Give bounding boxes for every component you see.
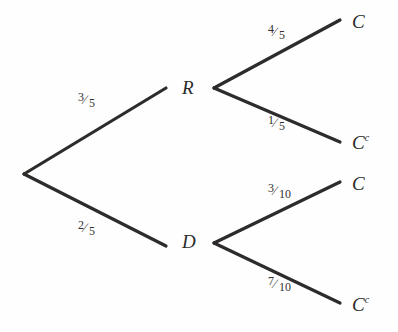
fraction-denominator: 10 [279, 187, 291, 201]
node-text-Ccomp-lower: C [352, 294, 365, 315]
fraction-denominator: 5 [279, 119, 285, 133]
tree-edges-canvas [0, 0, 398, 332]
node-label-Ccomp-upper: Cc [352, 133, 369, 152]
edge-root-to-D [24, 174, 166, 246]
edge-label-R-to-C: 4⁄5 [268, 25, 287, 38]
node-text-C-lower: C [352, 173, 365, 194]
node-superscript-complement-lower: c [365, 294, 369, 305]
node-text-D: D [182, 231, 196, 252]
node-label-C-upper: C [352, 12, 365, 31]
fraction-denominator: 5 [279, 28, 285, 42]
fraction-one-fifth: 1⁄5 [268, 116, 287, 129]
fraction-three-tenths: 3⁄10 [268, 184, 293, 197]
fraction-denominator: 10 [279, 280, 291, 294]
fraction-two-fifths: 2⁄5 [78, 221, 97, 234]
edge-label-root-to-D: 2⁄5 [78, 221, 97, 234]
edge-label-R-to-Ccomp: 1⁄5 [268, 116, 287, 129]
node-superscript-complement-upper: c [365, 132, 369, 143]
edge-label-root-to-R: 3⁄5 [78, 93, 97, 106]
fraction-four-fifths: 4⁄5 [268, 25, 287, 38]
node-text-C-upper: C [352, 11, 365, 32]
node-text-Ccomp-upper: C [352, 132, 365, 153]
probability-tree-diagram: R D C Cc C Cc 3⁄5 2⁄5 4⁄5 1⁄5 3⁄10 7⁄10 [0, 0, 398, 332]
edge-label-D-to-C: 3⁄10 [268, 184, 293, 197]
node-label-C-lower: C [352, 174, 365, 193]
edge-label-D-to-Ccomp: 7⁄10 [268, 277, 293, 290]
node-label-R: R [182, 78, 194, 97]
fraction-seven-tenths: 7⁄10 [268, 277, 293, 290]
fraction-three-fifths: 3⁄5 [78, 93, 97, 106]
edge-D-to-Ccomp [214, 243, 340, 303]
edge-R-to-Ccomp [214, 88, 340, 142]
fraction-denominator: 5 [89, 224, 95, 238]
fraction-denominator: 5 [89, 96, 95, 110]
node-text-R: R [182, 77, 194, 98]
node-label-D: D [182, 232, 196, 251]
node-label-Ccomp-lower: Cc [352, 295, 369, 314]
